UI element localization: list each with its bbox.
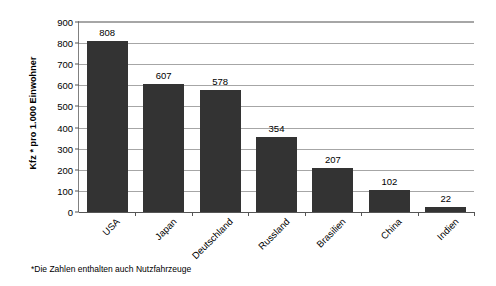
bar-value-label: 102 [381, 176, 397, 187]
x-axis-category-label: USA [100, 216, 122, 238]
y-axis-tick-mark [75, 106, 79, 107]
bar-slot: 578 [200, 22, 241, 212]
y-axis-tick-label: 500 [33, 101, 79, 112]
y-axis-tick-mark [75, 64, 79, 65]
bar-value-label: 578 [212, 76, 228, 87]
y-axis-tick-label: 400 [33, 122, 79, 133]
y-axis-tick-mark [75, 22, 79, 23]
bar [87, 41, 128, 212]
y-axis-tick-mark [75, 85, 79, 86]
y-axis-tick-mark [75, 43, 79, 44]
y-axis-tick-mark [75, 190, 79, 191]
bar [200, 90, 241, 212]
bar-value-label: 207 [325, 154, 341, 165]
x-axis-tick-mark [474, 212, 475, 216]
bar-slot: 22 [425, 22, 466, 212]
x-axis-category-label: Japan [152, 216, 178, 242]
plot-area: 80860757835420710222 9008007006005004003… [78, 21, 474, 212]
y-axis-tick-label: 800 [33, 38, 79, 49]
footnote: *Die Zahlen enthalten auch Nutzfahrzeuge [31, 264, 191, 274]
x-axis-category-label: Brasilien [314, 216, 348, 250]
bar-slot: 354 [256, 22, 297, 212]
x-axis-category-label: Deutschland [190, 216, 235, 261]
y-axis-tick-label: 200 [33, 164, 79, 175]
bar-slot: 808 [87, 22, 128, 212]
y-axis-tick-mark [75, 148, 79, 149]
bar [256, 137, 297, 212]
y-axis-tick-mark [75, 127, 79, 128]
bar [143, 84, 184, 212]
y-axis-tick-label: 700 [33, 59, 79, 70]
x-axis-category-label: Indien [434, 216, 460, 242]
x-axis-category-label: China [379, 216, 404, 241]
bar-chart-figure: Kfz * pro 1.000 Einwohner 80860757835420… [0, 0, 496, 286]
y-axis-tick-label: 0 [33, 207, 79, 218]
bar-series: 80860757835420710222 [79, 22, 474, 212]
bar-slot: 102 [369, 22, 410, 212]
bar-slot: 607 [143, 22, 184, 212]
bar-slot: 207 [312, 22, 353, 212]
y-axis-tick-label: 600 [33, 80, 79, 91]
bar-value-label: 22 [440, 193, 451, 204]
y-axis-tick-mark [75, 169, 79, 170]
y-axis-tick-label: 100 [33, 185, 79, 196]
x-axis-category-labels: USAJapanDeutschlandRusslandBrasilienChin… [78, 212, 473, 268]
bar-value-label: 354 [269, 123, 285, 134]
bar [312, 168, 353, 212]
bar-value-label: 808 [99, 27, 115, 38]
x-axis-category-label: Russland [255, 216, 291, 252]
y-axis-tick-label: 300 [33, 143, 79, 154]
y-axis-tick-label: 900 [33, 17, 79, 28]
bar [369, 190, 410, 212]
bar-value-label: 607 [156, 70, 172, 81]
